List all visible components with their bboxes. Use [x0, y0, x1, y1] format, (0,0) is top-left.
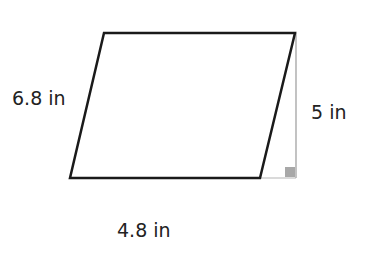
parallelogram-shape	[70, 33, 295, 178]
side-length-label: 6.8 in	[12, 89, 66, 108]
right-angle-marker	[285, 167, 295, 177]
base-length-label: 4.8 in	[117, 221, 171, 240]
parallelogram-diagram	[0, 0, 365, 271]
height-label: 5 in	[311, 103, 346, 122]
